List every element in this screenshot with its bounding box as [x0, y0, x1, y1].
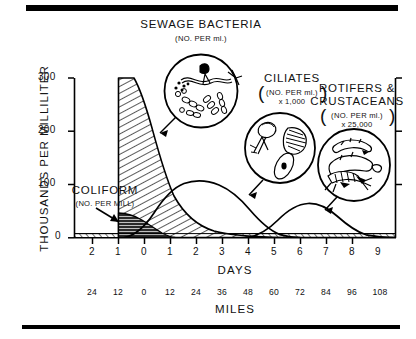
y-tick-300: 300 [38, 71, 56, 82]
x-tick-days-0: 2 [89, 246, 95, 257]
x-tick-miles-2: 0 [141, 287, 146, 297]
callout-sewage-bacteria-illustration [160, 55, 242, 138]
y-tick-200: 200 [38, 124, 56, 135]
coliform-pointer [96, 208, 119, 222]
x-tick-days-4: 2 [193, 246, 199, 257]
y-tick-0: 0 [55, 230, 61, 241]
x-tick-miles-4: 24 [191, 287, 201, 297]
figure-page: THOUSANDS PER MILLILITER 300 200 100 0 S… [0, 0, 416, 339]
callout-rotifers-subtitle: (NO. PER ml.) [331, 111, 383, 120]
x-tick-miles-5: 36 [217, 287, 227, 297]
x-tick-days-11: 9 [375, 246, 381, 257]
x-tick-days-5: 3 [219, 246, 225, 257]
x-tick-miles-6: 48 [243, 287, 253, 297]
ciliates-paren-left: ( [258, 83, 265, 102]
right-axis-ticks [396, 78, 402, 185]
callout-ciliates-subtitle2: x 1,000 [279, 97, 306, 106]
x-tick-miles-1: 12 [113, 287, 123, 297]
x-tick-miles-0: 24 [87, 287, 97, 297]
x-tick-days-2: 0 [141, 246, 147, 257]
rotifers-paren-right: ) [389, 106, 396, 125]
x-tick-days-8: 6 [297, 246, 303, 257]
y-tick-100: 100 [38, 177, 56, 188]
series-line-rotifers-crustaceans [247, 203, 396, 237]
callout-sewage-bacteria-subtitle: (NO. PER ml.) [175, 34, 227, 43]
x-axis-ticks [93, 238, 353, 244]
callout-ciliates-illustration [245, 113, 315, 199]
x-tick-days-7: 5 [271, 246, 277, 257]
y-axis-title: THOUSANDS PER MILLILITER [37, 64, 50, 254]
callout-ciliates-title: CILIATES [264, 72, 320, 84]
callout-sewage-bacteria-title: SEWAGE BACTERIA [140, 18, 261, 30]
callout-rotifers-title: ROTIFERS & [319, 82, 395, 94]
pointer-sewage-bacteria [160, 117, 176, 133]
callout-rotifers-subtitle2: x 25,000 [341, 120, 372, 129]
x-tick-miles-8: 72 [295, 287, 305, 297]
callout-rotifers-crustaceans-illustration [318, 129, 390, 214]
x-tick-miles-10: 96 [347, 287, 357, 297]
x-tick-days-6: 4 [245, 246, 251, 257]
callout-coliform-title: COLIFORM [72, 184, 138, 196]
x-tick-miles-11: 108 [372, 287, 387, 297]
rotifers-paren-left: ( [320, 106, 327, 125]
x-tick-miles-9: 84 [321, 287, 331, 297]
x-tick-days-9: 7 [323, 246, 329, 257]
y-axis-ticks [68, 78, 74, 238]
x-tick-days-3: 1 [167, 246, 173, 257]
callout-coliform-subtitle: (NO. PER MILL) [76, 199, 135, 208]
x-tick-miles-7: 60 [269, 287, 279, 297]
x-tick-miles-3: 12 [165, 287, 175, 297]
x-axis-label-days: DAYS [218, 264, 253, 276]
x-tick-days-10: 8 [349, 246, 355, 257]
x-axis-label-miles: MILES [215, 303, 255, 315]
x-tick-days-1: 1 [115, 246, 121, 257]
